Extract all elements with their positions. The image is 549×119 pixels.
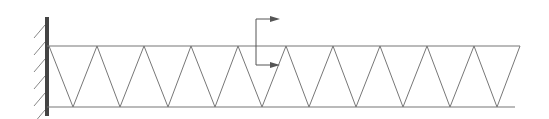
diagonal-member bbox=[73, 46, 97, 107]
diagonal-member bbox=[497, 46, 520, 107]
diagonal-member bbox=[215, 46, 238, 107]
section-cut-arrows bbox=[256, 16, 280, 68]
diagonal-member bbox=[356, 46, 380, 107]
diagonal-member bbox=[144, 46, 168, 107]
hatch-line bbox=[34, 42, 45, 55]
hatch-line bbox=[34, 76, 45, 89]
diagonal-member bbox=[403, 46, 427, 107]
diagonal-member bbox=[309, 46, 333, 107]
diagonal-member bbox=[120, 46, 144, 107]
diagonal-member bbox=[286, 46, 309, 107]
hatch-line bbox=[34, 25, 45, 38]
hatch-line bbox=[34, 110, 45, 119]
diagonal-member bbox=[474, 46, 497, 107]
diagonal-member bbox=[168, 46, 191, 107]
truss-diagram bbox=[0, 0, 549, 119]
hatch-line bbox=[34, 93, 45, 106]
wall-hatch bbox=[34, 25, 45, 119]
web-members bbox=[49, 46, 520, 107]
diagonal-member bbox=[262, 46, 286, 107]
arrowhead-icon bbox=[270, 62, 280, 68]
diagonal-member bbox=[450, 46, 474, 107]
diagonal-member bbox=[333, 46, 356, 107]
diagonal-member bbox=[191, 46, 215, 107]
arrowhead-icon bbox=[270, 16, 280, 22]
diagonal-member bbox=[427, 46, 450, 107]
hatch-line bbox=[34, 59, 45, 72]
diagonal-member bbox=[49, 46, 73, 107]
diagonal-member bbox=[238, 46, 262, 107]
diagonal-member bbox=[380, 46, 403, 107]
diagonal-member bbox=[97, 46, 120, 107]
